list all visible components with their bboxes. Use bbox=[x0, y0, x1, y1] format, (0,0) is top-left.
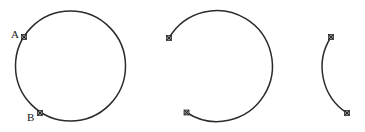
minor-arc-start-marker bbox=[329, 35, 334, 40]
full-circle-figure: A B bbox=[11, 11, 126, 123]
point-a-label: A bbox=[11, 28, 19, 40]
full-circle bbox=[16, 11, 126, 121]
major-arc bbox=[169, 11, 272, 122]
major-arc-start-marker bbox=[167, 36, 172, 41]
arc-diagram: A B bbox=[0, 0, 365, 132]
point-a-marker bbox=[22, 35, 27, 40]
minor-arc-figure bbox=[322, 35, 349, 116]
point-b-marker bbox=[38, 111, 43, 116]
major-arc-end-marker bbox=[184, 110, 189, 115]
minor-arc bbox=[322, 37, 347, 113]
minor-arc-end-marker bbox=[345, 111, 350, 116]
major-arc-figure bbox=[167, 11, 273, 122]
point-b-label: B bbox=[27, 111, 34, 123]
